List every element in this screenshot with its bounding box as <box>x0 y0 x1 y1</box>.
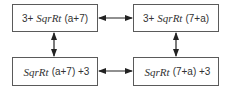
node-bottom-left: SqrRt (a+7) +3 <box>12 57 98 86</box>
node-function: SqrRt <box>145 66 170 78</box>
node-top-left: 3+ SqrRt (a+7) <box>12 4 98 32</box>
node-args: (a+7) +3 <box>52 66 90 77</box>
node-prefix: 3+ <box>143 13 154 24</box>
node-args: (7+a) <box>185 13 209 24</box>
node-bottom-right: SqrRt (7+a) +3 <box>133 57 219 86</box>
node-args: (a+7) <box>64 13 88 24</box>
node-function: SqrRt <box>157 12 182 24</box>
node-args: (7+a) +3 <box>173 66 211 77</box>
node-function: SqrRt <box>24 66 49 78</box>
node-function: SqrRt <box>36 12 61 24</box>
node-prefix: 3+ <box>22 13 33 24</box>
node-top-right: 3+ SqrRt (7+a) <box>133 4 219 32</box>
